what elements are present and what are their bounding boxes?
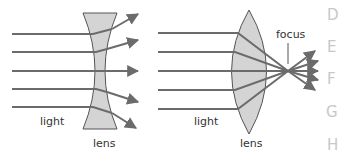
side-letter-g: G	[326, 103, 338, 121]
side-letter-f: F	[327, 70, 336, 88]
lens-label: lens	[93, 137, 116, 150]
light-label: light	[194, 115, 219, 128]
lens-diagram: light lens focus light lens D E F G H	[0, 0, 339, 154]
side-letter-h: H	[327, 136, 338, 154]
incoming-rays	[158, 33, 288, 109]
focus-label: focus	[276, 28, 306, 41]
concave-lens-diagram: light lens	[12, 13, 138, 150]
convex-lens-diagram: focus light lens	[158, 10, 318, 150]
side-letter-d: D	[327, 6, 339, 24]
diverging-rays-after-focus	[288, 51, 318, 90]
light-label: light	[40, 115, 65, 128]
side-letters: D E F G H	[326, 6, 339, 154]
side-letter-e: E	[327, 38, 336, 56]
lens-label: lens	[240, 137, 263, 150]
